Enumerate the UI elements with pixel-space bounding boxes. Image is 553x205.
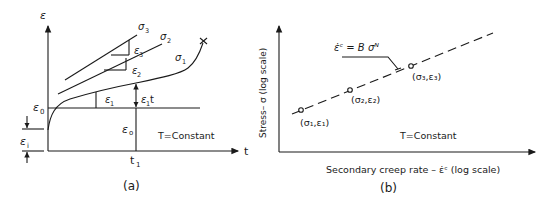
t1-label: t: [130, 154, 135, 167]
point-1-label: (σ₁,ε₁): [300, 117, 329, 128]
strain-axis-label: ε: [40, 9, 46, 22]
data-point-1: [299, 108, 304, 113]
time-axis-label: t: [244, 145, 249, 158]
eps0-vertical-label: ε: [122, 123, 128, 136]
creep-diagram: ε t ε 0 ε i ε o t 1 T=Constant σ 3 σ 2 σ…: [0, 0, 553, 205]
power-law-equation: ε̇ᶜ = B σᴺ: [334, 42, 379, 53]
sigma2-sub: 2: [167, 37, 171, 45]
sigma3-label: σ: [138, 21, 145, 32]
eps-i-sub: i: [27, 142, 29, 150]
point-2-label: (σ₂,ε₂): [351, 94, 380, 105]
sigma2-label: σ: [160, 31, 167, 42]
eps0-sub: 0: [40, 108, 44, 116]
slope2-sub: 2: [137, 71, 141, 79]
creep-rate-axis-label: Secondary creep rate – ε̇ᶜ (log scale): [326, 164, 500, 175]
eps0-label: ε: [33, 101, 39, 114]
slope3-sub: 3: [139, 51, 143, 59]
eps-i-label: ε: [20, 135, 26, 148]
sigma1-label: σ: [175, 52, 182, 63]
slope1-sub: 1: [110, 100, 114, 108]
panel-b-labels: Stress– σ (log scale) Secondary creep ra…: [258, 42, 500, 195]
panel-b-caption: (b): [380, 181, 397, 195]
stress-axis-label: Stress– σ (log scale): [258, 48, 268, 138]
panel-a-condition: T=Constant: [157, 130, 215, 141]
sigma3-sub: 3: [145, 27, 149, 35]
data-point-2: [348, 88, 353, 93]
increment-suffix: t: [150, 94, 154, 105]
panel-b-condition: T=Constant: [399, 130, 457, 141]
equation-leader: [342, 57, 398, 69]
t1-sub: 1: [136, 161, 140, 169]
panel-a-caption: (a): [123, 179, 140, 193]
eps0-vertical-sub: o: [129, 129, 133, 137]
panel-a: [22, 26, 238, 163]
point-3-label: (σ₃,ε₃): [412, 71, 441, 82]
data-point-3: [409, 64, 414, 69]
power-law-fit-line: [292, 33, 493, 114]
sigma1-sub: 1: [182, 58, 186, 66]
